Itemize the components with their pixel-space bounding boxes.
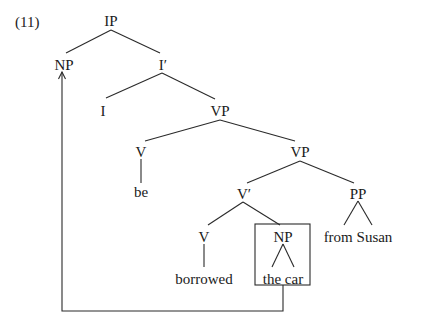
leaf-the-car: the car <box>263 271 303 287</box>
edge-ibar-i <box>106 73 162 98</box>
edge-ip-np <box>66 30 111 53</box>
node-ip: IP <box>104 13 117 29</box>
edge-vp-v <box>145 120 220 141</box>
edge-pp-from-susan-right <box>358 201 372 225</box>
node-np-subject: NP <box>54 57 73 73</box>
node-vp-upper: VP <box>210 103 229 119</box>
edge-vbar-v <box>208 202 243 225</box>
node-i-bar: I′ <box>159 57 167 73</box>
node-i: I <box>101 103 106 119</box>
leaf-be: be <box>134 184 149 200</box>
node-np-object: NP <box>273 229 292 245</box>
node-pp: PP <box>350 186 367 202</box>
edge-ibar-vp <box>162 73 215 99</box>
edge-vp-vp <box>220 120 295 141</box>
edge-ip-ibar <box>111 30 160 53</box>
edge-vbar-np <box>243 202 280 225</box>
node-v-bar: V′ <box>237 186 251 202</box>
example-number: (11) <box>15 14 39 31</box>
syntax-tree-diagram: (11) IP NP I′ I <box>0 0 423 324</box>
edge-vp-vbar <box>247 161 300 183</box>
edge-pp-from-susan-left <box>344 201 358 225</box>
leaf-borrowed: borrowed <box>175 271 233 287</box>
node-vp-lower: VP <box>290 144 309 160</box>
tree-nodes: IP NP I′ I VP V be VP V′ PP from Susan V… <box>54 13 392 287</box>
node-v-borrowed: V <box>199 229 210 245</box>
edge-np-the-car-right <box>283 244 294 267</box>
node-v-be: V <box>136 144 147 160</box>
edge-vp-pp <box>300 161 354 183</box>
leaf-from-susan: from Susan <box>324 229 393 245</box>
edge-np-the-car-left <box>272 244 283 267</box>
